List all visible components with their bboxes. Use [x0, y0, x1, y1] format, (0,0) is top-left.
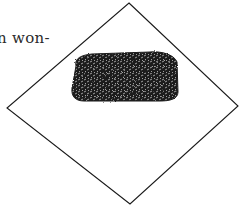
diamond-outline: [7, 3, 238, 204]
textured-patch: [72, 52, 178, 101]
diamond-sheet-illustration: [0, 0, 243, 224]
